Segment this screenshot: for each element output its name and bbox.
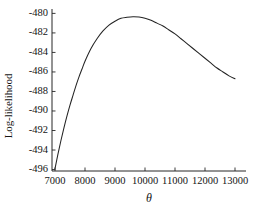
y-tick-label: -484 xyxy=(12,47,48,57)
x-tick-label: 7000 xyxy=(38,176,72,186)
x-tick-label: 8000 xyxy=(68,176,102,186)
x-tick-label: 12000 xyxy=(188,176,222,186)
axes-spines xyxy=(52,9,246,171)
y-tick-label: -494 xyxy=(12,145,48,155)
x-tick-label: 13000 xyxy=(218,176,252,186)
log-likelihood-chart: Log-likelihood θ -480-482-484-486-488-49… xyxy=(0,0,254,212)
y-tick-label: -488 xyxy=(12,86,48,96)
y-axis-ticks xyxy=(52,13,56,169)
x-tick-label: 9000 xyxy=(98,176,132,186)
x-tick-label: 11000 xyxy=(158,176,192,186)
x-tick-label: 10000 xyxy=(128,176,162,186)
y-tick-label: -492 xyxy=(12,125,48,135)
y-tick-label: -490 xyxy=(12,105,48,115)
x-axis-ticks xyxy=(55,168,235,172)
y-tick-label: -496 xyxy=(12,164,48,174)
y-tick-label: -486 xyxy=(12,66,48,76)
y-tick-label: -480 xyxy=(12,8,48,18)
y-tick-label: -482 xyxy=(12,27,48,37)
log-likelihood-curve xyxy=(55,17,235,169)
x-axis-label: θ xyxy=(52,191,246,206)
